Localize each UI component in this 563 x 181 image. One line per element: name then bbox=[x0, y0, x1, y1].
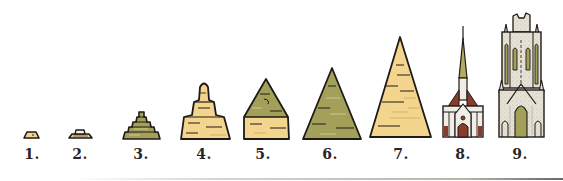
structure-3-stepped-pyramid-icon bbox=[123, 112, 160, 139]
label-5: 5. bbox=[255, 146, 271, 162]
structure-8-church-icon bbox=[443, 26, 483, 137]
structure-7-tall-pyramid-icon bbox=[370, 37, 431, 137]
label-1: 1. bbox=[24, 146, 40, 162]
label-3: 3. bbox=[133, 146, 149, 162]
label-7: 7. bbox=[393, 146, 409, 162]
label-4: 4. bbox=[196, 146, 212, 162]
label-9: 9. bbox=[512, 146, 528, 162]
structure-4-stepped-tower-icon bbox=[181, 84, 230, 140]
structure-9-cathedral-icon bbox=[499, 13, 544, 137]
structure-6-pyramid-icon bbox=[303, 68, 361, 139]
structure-5-two-tone-pyramid-icon bbox=[244, 79, 289, 139]
label-8: 8. bbox=[455, 146, 471, 162]
label-6: 6. bbox=[322, 146, 338, 162]
structure-1-slab-icon bbox=[24, 132, 39, 138]
label-2: 2. bbox=[72, 146, 88, 162]
structure-2-slab-block-icon bbox=[69, 130, 92, 138]
structures-illustration: 1. 2. 3. 4. 5. 6. 7. 8. 9. bbox=[0, 0, 563, 181]
bottom-divider bbox=[70, 178, 563, 180]
